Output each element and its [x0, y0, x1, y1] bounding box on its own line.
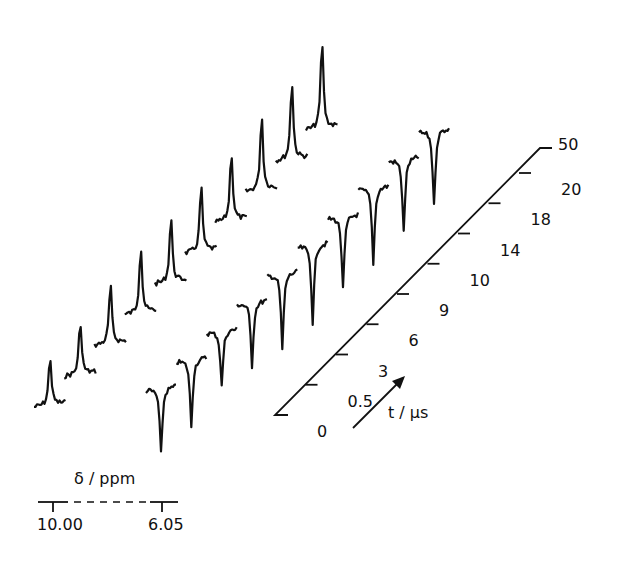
time-tick-label: 0.5 [348, 392, 373, 411]
positive-spectrum-trace [64, 327, 96, 378]
positive-spectrum-trace [94, 286, 126, 347]
time-tick-label: 50 [558, 135, 578, 154]
ppm-axis-label: δ / ppm [74, 469, 135, 488]
positive-peak-traces [34, 47, 338, 407]
ppm-tick-10: 10.00 [37, 515, 83, 534]
ppm-axis: δ / ppm 10.00 6.05 [37, 469, 184, 534]
negative-spectrum-trace [146, 385, 176, 452]
positive-spectrum-trace [125, 252, 157, 314]
time-axis-label: t / µs [388, 403, 428, 422]
negative-spectrum-trace [328, 213, 358, 288]
negative-spectrum-trace [176, 356, 206, 427]
time-tick-label: 0 [317, 422, 327, 441]
negative-spectrum-trace [358, 185, 388, 265]
negative-spectrum-trace [298, 241, 328, 325]
negative-spectrum-trace [419, 128, 449, 204]
negative-spectrum-trace [267, 269, 297, 349]
positive-spectrum-trace [276, 87, 308, 162]
time-tick-label: 9 [439, 301, 449, 320]
negative-spectrum-trace [207, 327, 237, 385]
time-tick-label: 20 [561, 180, 581, 199]
negative-spectrum-trace [389, 156, 419, 231]
time-tick-label: 6 [409, 331, 419, 350]
positive-spectrum-trace [306, 47, 338, 130]
time-axis: 00.53691014182050 t / µs [275, 135, 581, 441]
positive-spectrum-trace [215, 158, 247, 222]
positive-spectrum-trace [185, 188, 217, 255]
negative-spectrum-trace [237, 299, 267, 368]
positive-spectrum-trace [155, 220, 187, 285]
time-tick-label: 3 [378, 362, 388, 381]
positive-spectrum-trace [246, 120, 278, 192]
positive-spectrum-trace [34, 361, 66, 407]
time-tick-label: 10 [470, 271, 490, 290]
stacked-spectra-plot: 00.53691014182050 t / µs δ / ppm 10.00 6… [0, 0, 630, 571]
time-tick-label: 18 [531, 210, 551, 229]
ppm-tick-6-05: 6.05 [148, 515, 184, 534]
time-tick-label: 14 [500, 241, 520, 260]
